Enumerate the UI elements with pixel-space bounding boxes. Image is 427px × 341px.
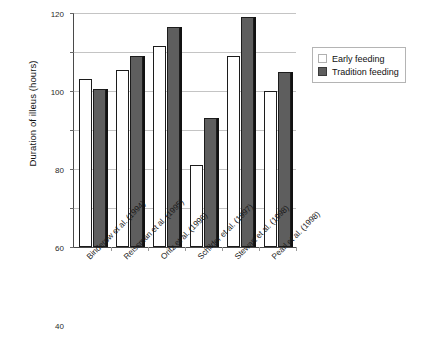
y-tick-label: 40: [55, 322, 64, 331]
y-tick-label: 80: [55, 166, 64, 175]
y-tick-label: 120: [51, 10, 64, 19]
y-tick-mark: 60: [70, 130, 74, 131]
y-tick-mark: 100: [70, 52, 74, 53]
y-tick-mark: 120: [70, 13, 74, 14]
x-tick-mark: [148, 247, 149, 251]
legend-item-tradition-feeding: Tradition feeding: [318, 65, 399, 78]
gridline: [74, 130, 296, 131]
chart-legend: Early feeding Tradition feeding: [312, 47, 406, 83]
x-tick-mark: [185, 247, 186, 251]
legend-label-tradition: Tradition feeding: [332, 67, 399, 77]
plot-area: 020406080100120: [73, 13, 296, 248]
y-tick-mark: 40: [70, 169, 74, 170]
y-tick-mark: 0: [70, 247, 74, 248]
gridline: [74, 91, 296, 92]
legend-swatch-early-icon: [318, 54, 327, 63]
gridline: [74, 208, 296, 209]
x-tick-mark: [111, 247, 112, 251]
y-tick-mark: 20: [70, 208, 74, 209]
gridline: [74, 13, 296, 14]
bar-early: [79, 79, 93, 247]
bar-tradition: [204, 118, 218, 247]
y-tick-label: 100: [51, 88, 64, 97]
bar-group: [79, 13, 107, 247]
legend-label-early: Early feeding: [332, 54, 385, 64]
bar-tradition: [93, 89, 107, 247]
legend-swatch-tradition-icon: [318, 67, 327, 76]
y-tick-mark: 80: [70, 91, 74, 92]
x-tick-mark: [296, 247, 297, 251]
bar-chart-figure: Duration of illeus (hours) 0204060801001…: [0, 0, 427, 341]
x-tick-mark: [259, 247, 260, 251]
gridline: [74, 169, 296, 170]
gridline: [74, 52, 296, 53]
x-tick-mark: [222, 247, 223, 251]
y-axis-title: Duration of illeus (hours): [27, 34, 38, 194]
y-tick-label: 60: [55, 244, 64, 253]
legend-item-early-feeding: Early feeding: [318, 52, 399, 65]
